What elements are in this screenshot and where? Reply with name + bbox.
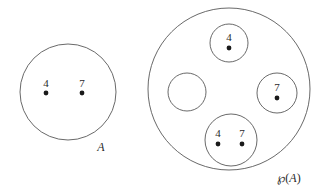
subset-singleton-4-boundary-circle bbox=[210, 24, 248, 62]
subset-pair-4-7-element-4-dot bbox=[216, 142, 221, 147]
power-set-subset-empty-set bbox=[168, 73, 206, 111]
power-set-subset-pair-4-7: 4 7 bbox=[205, 114, 257, 166]
diagram-canvas: 4 7 A 4 7 bbox=[0, 0, 329, 193]
set-a-boundary-circle bbox=[20, 44, 116, 140]
subset-pair-4-7-boundary-circle bbox=[205, 114, 257, 166]
set-a-name-label: A bbox=[96, 140, 105, 154]
power-set-diagram: 4 7 A 4 7 bbox=[0, 0, 329, 193]
subset-singleton-7-element-7-dot bbox=[275, 96, 280, 101]
subset-pair-4-7-element-7-label: 7 bbox=[239, 127, 245, 139]
subset-singleton-7-boundary-circle bbox=[257, 73, 297, 113]
subset-singleton-7-element-7-label: 7 bbox=[274, 81, 280, 93]
power-set-subset-singleton-4: 4 bbox=[210, 24, 248, 62]
subset-pair-4-7-element-4-label: 4 bbox=[215, 127, 221, 139]
set-a-group: 4 7 A bbox=[20, 44, 116, 154]
subset-empty-set-boundary-circle bbox=[168, 73, 206, 111]
power-set-subset-singleton-7: 7 bbox=[257, 73, 297, 113]
subset-singleton-4-element-4-dot bbox=[227, 46, 232, 51]
set-a-element-4-dot bbox=[44, 91, 49, 96]
set-a-element-4-label: 4 bbox=[43, 77, 49, 89]
set-a-element-7-dot bbox=[80, 91, 85, 96]
power-set-name-label: ℘(A) bbox=[277, 171, 300, 185]
power-set-group: 4 7 4 7 ℘(A) bbox=[148, 8, 310, 185]
subset-pair-4-7-element-7-dot bbox=[240, 142, 245, 147]
set-a-element-7-label: 7 bbox=[79, 77, 85, 89]
subset-singleton-4-element-4-label: 4 bbox=[226, 31, 232, 43]
